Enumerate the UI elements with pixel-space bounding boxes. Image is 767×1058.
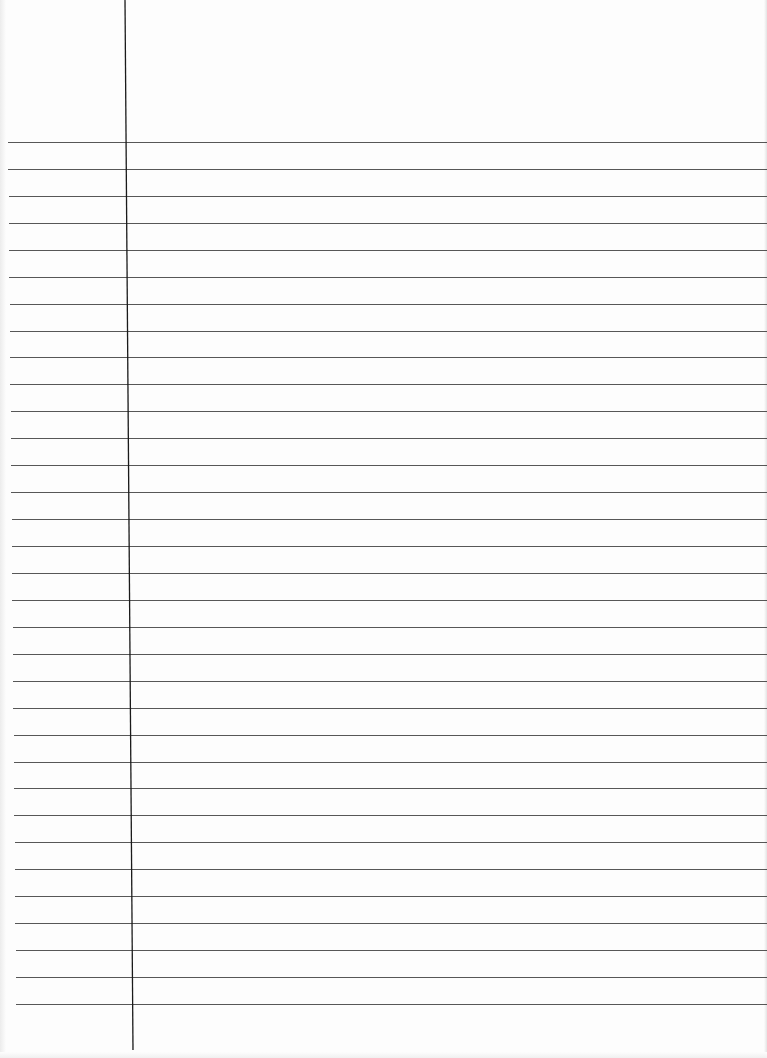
ruled-line [12, 573, 767, 574]
ruled-line [14, 815, 767, 816]
ruled-line [9, 223, 767, 224]
ruled-line [11, 438, 767, 439]
ruled-line [13, 627, 767, 628]
paper-edge-shadow-left [0, 0, 6, 1058]
ruled-line [11, 492, 767, 493]
margin-line [0, 0, 767, 1058]
ruled-line [10, 331, 767, 332]
ruled-line [15, 842, 767, 843]
ruled-line [10, 357, 767, 358]
ruled-line [12, 519, 767, 520]
ruled-line [9, 196, 767, 197]
ruled-line [9, 250, 767, 251]
ruled-line [15, 923, 767, 924]
paper-edge-shadow-bottom [0, 1052, 767, 1058]
ruled-line [14, 735, 767, 736]
ruled-line [12, 546, 767, 547]
ruled-line [16, 977, 767, 978]
ruled-line [10, 384, 767, 385]
ruled-line [11, 411, 767, 412]
ruled-line [16, 950, 767, 951]
ruled-line [11, 465, 767, 466]
ruled-line [12, 600, 767, 601]
ruled-line [15, 869, 767, 870]
ruled-paper-sheet [0, 0, 767, 1058]
ruled-line [14, 788, 767, 789]
ruled-line [9, 277, 767, 278]
ruled-line [14, 762, 767, 763]
ruled-line [15, 896, 767, 897]
ruled-line [8, 169, 767, 170]
ruled-line [8, 142, 767, 143]
ruled-line [13, 708, 767, 709]
ruled-line [13, 681, 767, 682]
ruled-line [10, 304, 767, 305]
ruled-line [13, 654, 767, 655]
ruled-line [16, 1004, 767, 1005]
